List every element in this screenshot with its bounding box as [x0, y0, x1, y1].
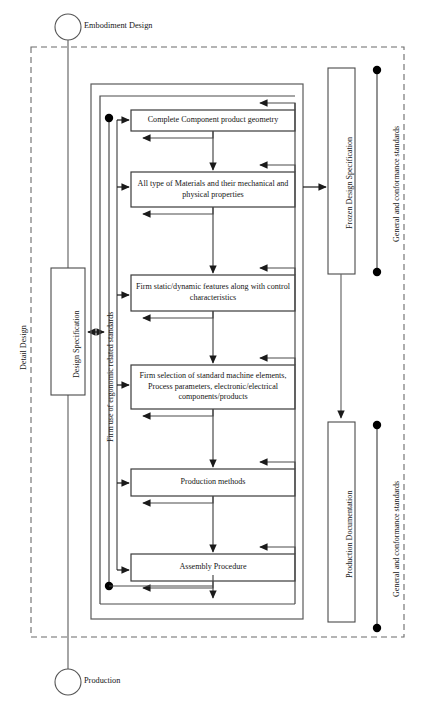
general-standards-lower-bottom-node [373, 624, 381, 632]
box-firm-selection-of-standard-machine-elements-shape [131, 365, 295, 409]
box-complete-component-product-geometry-shape [131, 110, 295, 131]
feedback-return-box3 [143, 311, 213, 318]
feedback-return-box1 [143, 131, 213, 138]
general-standards-lower-top-node [373, 421, 381, 429]
ergonomic-standards-top-node [105, 114, 113, 122]
box-production-documentation-shape [328, 422, 355, 622]
box-frozen-design-specification-shape [328, 68, 355, 274]
output-box3-hook [260, 268, 295, 275]
terminator-embodiment-design-circle [55, 14, 81, 40]
diagram-canvas [0, 0, 433, 711]
flowchart-diagram: Embodiment Design Production Detail Desi… [0, 0, 433, 711]
output-box6-hook [260, 547, 295, 554]
feedback-return-box5 [143, 496, 213, 503]
box-all-type-of-materials-shape [131, 172, 295, 207]
box-production-methods-shape [131, 469, 295, 496]
general-standards-upper-top-node [373, 66, 381, 74]
general-standards-upper-bottom-node [373, 268, 381, 276]
feedback-return-box6 [143, 581, 213, 588]
box-firm-static-dynamic-features-shape [131, 275, 295, 311]
inner-process-frame [91, 84, 303, 619]
box-design-specification-shape [51, 268, 85, 395]
output-box1-hook [260, 103, 295, 110]
output-box2-hook [260, 165, 295, 172]
feedback-return-box4 [143, 409, 213, 416]
output-box4-hook [260, 358, 295, 365]
terminator-production-circle [55, 669, 81, 695]
output-box5-hook [260, 462, 295, 469]
feedback-return-box2 [143, 207, 213, 214]
